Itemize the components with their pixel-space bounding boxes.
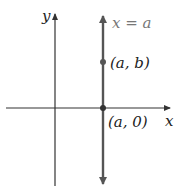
point-a-b	[100, 59, 106, 65]
coordinate-diagram: y x x = a (a, b) (a, 0)	[0, 0, 181, 191]
point-a-b-label: (a, b)	[110, 54, 150, 72]
vertical-line-label: x = a	[112, 14, 152, 32]
x-axis-label: x	[165, 112, 174, 130]
point-a-0-label: (a, 0)	[108, 113, 148, 131]
point-a-0	[100, 105, 106, 111]
y-axis-label: y	[41, 7, 51, 25]
